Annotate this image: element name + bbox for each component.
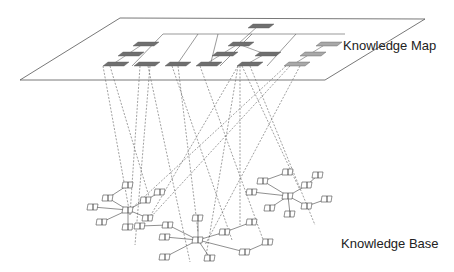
book-page — [122, 207, 133, 213]
book-icon — [159, 234, 170, 240]
book-page — [282, 169, 293, 175]
knowledge-base-label: Knowledge Base — [341, 236, 439, 251]
book-page — [142, 215, 153, 221]
book-icon — [262, 239, 273, 245]
cross-links — [103, 66, 315, 262]
book-page — [140, 197, 151, 203]
book-icon — [284, 211, 295, 217]
book-page — [257, 178, 268, 184]
book-page — [301, 203, 312, 209]
book-icon — [162, 222, 173, 228]
map-node — [255, 52, 281, 56]
book-icon — [96, 219, 107, 225]
book-page — [159, 234, 170, 240]
book-page — [204, 255, 215, 261]
knowledge-map-label: Knowledge Map — [343, 38, 436, 53]
book-page — [219, 229, 230, 235]
book-icon — [312, 172, 323, 178]
book-icon — [122, 224, 133, 230]
knowledge-map-nodes — [103, 24, 342, 66]
book-page — [96, 219, 107, 225]
book-page — [122, 224, 133, 230]
book-page — [102, 195, 113, 201]
dashed-link — [130, 66, 140, 215]
dashed-link — [110, 66, 150, 200]
book-icon — [321, 196, 332, 202]
book-page — [192, 215, 203, 221]
map-node — [118, 52, 144, 56]
book-page — [262, 239, 273, 245]
book-page — [154, 189, 165, 195]
book-icon — [122, 182, 133, 188]
map-node — [212, 52, 238, 56]
book-icon — [204, 255, 215, 261]
map-node — [228, 42, 254, 46]
map-node — [165, 62, 191, 66]
book-icon — [246, 189, 257, 195]
book-page — [312, 172, 323, 178]
book-page — [87, 204, 98, 210]
dashed-link — [148, 66, 238, 220]
dashed-link — [178, 66, 198, 232]
book-page — [192, 237, 203, 243]
book-page — [321, 196, 332, 202]
map-node — [133, 42, 159, 46]
book-icon — [122, 207, 133, 213]
book-icon — [140, 197, 151, 203]
book-page — [301, 182, 312, 188]
map-node — [248, 24, 274, 28]
frame-divider — [220, 34, 252, 66]
book-icon — [134, 223, 145, 229]
map-node — [134, 62, 160, 66]
inner-frame — [132, 34, 345, 66]
book-page — [284, 211, 295, 217]
frame-divider — [267, 34, 296, 66]
book-icon — [87, 204, 98, 210]
dashed-link — [200, 66, 265, 245]
map-node — [284, 62, 310, 66]
book-icon — [192, 237, 203, 243]
book-icon — [282, 169, 293, 175]
book-page — [134, 223, 145, 229]
dashed-link — [205, 66, 300, 245]
book-icon — [301, 182, 312, 188]
book-page — [246, 219, 257, 225]
map-node — [316, 42, 342, 46]
dashed-link — [150, 66, 290, 218]
book-icon — [102, 195, 113, 201]
book-icon — [246, 219, 257, 225]
dashed-link — [130, 66, 286, 210]
book-icon — [257, 178, 268, 184]
book-icon — [154, 189, 165, 195]
book-icon — [282, 193, 293, 199]
book-page — [159, 254, 170, 260]
book-icon — [219, 229, 230, 235]
book-icon — [264, 205, 275, 211]
book-icon — [159, 254, 170, 260]
book-page — [264, 205, 275, 211]
book-icon — [192, 215, 203, 221]
book-page — [282, 193, 293, 199]
knowledge-base-trees — [87, 169, 332, 261]
spacer — [163, 34, 180, 66]
map-node — [237, 62, 263, 66]
book-page — [122, 182, 133, 188]
book-icon — [239, 249, 250, 255]
map-node — [196, 62, 222, 66]
map-node — [103, 62, 129, 66]
map-edge — [238, 26, 258, 44]
book-page — [162, 222, 173, 228]
book-icon — [301, 203, 312, 209]
frame-divider — [176, 34, 198, 66]
book-page — [239, 249, 250, 255]
map-node — [300, 52, 326, 56]
book-icon — [142, 215, 153, 221]
frame-divider — [210, 34, 218, 66]
book-page — [246, 189, 257, 195]
